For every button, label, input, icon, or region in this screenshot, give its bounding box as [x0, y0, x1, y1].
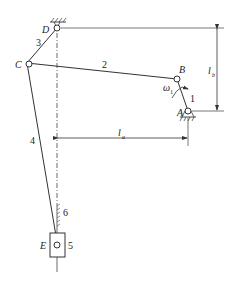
dimension-la-symbol: l	[118, 127, 121, 138]
label-link-2: 2	[102, 59, 107, 70]
joint-a	[185, 108, 191, 114]
link-4	[27, 63, 56, 236]
joint-c	[26, 61, 32, 67]
dimension-lb-subscript: b	[212, 72, 215, 78]
omega-subscript: 1	[170, 89, 173, 95]
label-b: B	[179, 64, 185, 75]
label-link-5: 5	[68, 240, 73, 251]
label-link-1: 1	[190, 93, 195, 104]
joint-e	[54, 242, 60, 248]
label-link-6: 6	[63, 207, 68, 218]
label-e: E	[39, 240, 46, 251]
label-a: A	[176, 107, 184, 118]
omega-symbol: ω	[163, 82, 170, 93]
omega-arrow-icon	[172, 87, 188, 98]
joint-d	[54, 25, 60, 31]
label-d: D	[41, 24, 50, 35]
joint-b	[174, 76, 180, 82]
label-link-3: 3	[36, 37, 41, 48]
dimension-lb-symbol: l	[208, 65, 211, 76]
dimension-lb: l b	[208, 29, 217, 110]
label-link-4: 4	[30, 135, 35, 146]
dimension-la: l a	[58, 118, 188, 146]
dimension-la-subscript: a	[122, 134, 125, 140]
label-c: C	[15, 59, 22, 70]
mechanism-diagram: l b l a	[0, 0, 238, 285]
